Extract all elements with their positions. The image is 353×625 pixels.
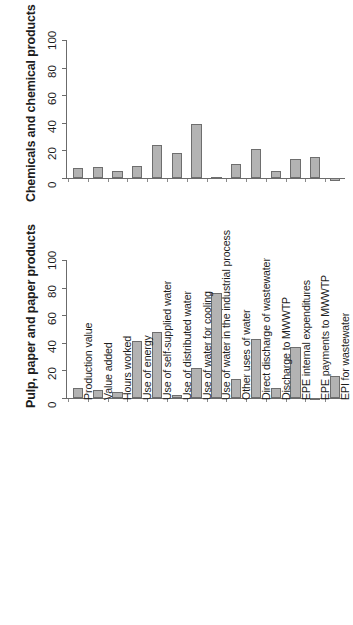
x-axis-label: Use of water in the industrial process (220, 230, 232, 400)
x-axis-label: Use of energy (141, 335, 153, 400)
chart-panel-chemicals: Chemicals and chemical products 02040608… (0, 0, 353, 210)
x-tick-mark (246, 179, 247, 182)
y-tick-label: 100 (46, 31, 58, 50)
y-tick-label: 40 (46, 120, 58, 133)
x-tick-mark (147, 179, 148, 182)
x-tick-mark (68, 179, 69, 182)
bar (271, 171, 281, 178)
bar (231, 164, 241, 178)
y-tick-label: 60 (46, 312, 58, 325)
bar (152, 145, 162, 178)
x-tick-mark (88, 179, 89, 182)
x-axis-label: Value added (102, 342, 114, 400)
x-axis-category-labels: Production valueValue addedHours workedU… (0, 398, 353, 625)
figure-root: Chemicals and chemical products 02040608… (0, 0, 353, 625)
x-tick-mark (108, 179, 109, 182)
bar (73, 168, 83, 178)
x-tick-mark (266, 179, 267, 182)
y-tick-label: 40 (46, 340, 58, 353)
x-axis-label: Use of self-supplied water (161, 281, 173, 400)
x-axis-label: EPI for wastewater (339, 313, 351, 400)
x-axis-label: Use of distributed water (181, 291, 193, 400)
x-axis-label: Use of water for cooling (201, 291, 213, 400)
bar (330, 178, 340, 181)
x-axis-label: Discharge to MWWTP (280, 297, 292, 400)
bar (172, 153, 182, 178)
bar (290, 159, 300, 178)
y-axis-title-chemicals: Chemicals and chemical products (24, 5, 38, 203)
x-tick-mark (207, 179, 208, 182)
x-axis-label: Hours worked (121, 336, 133, 400)
bar (132, 166, 142, 178)
y-tick-label: 20 (46, 148, 58, 161)
y-axis-spine (66, 40, 67, 178)
x-tick-mark (127, 179, 128, 182)
x-axis-label: EPE payments to MWWTP (319, 275, 331, 400)
x-axis-label: Production value (82, 323, 94, 400)
x-tick-mark (325, 179, 326, 182)
bar (251, 149, 261, 178)
bar (310, 157, 320, 178)
x-axis-label: Other uses of water (240, 309, 252, 400)
x-tick-mark (305, 179, 306, 182)
bar (93, 167, 103, 178)
x-tick-mark (226, 179, 227, 182)
y-tick-label: 80 (46, 65, 58, 78)
x-axis-label: Direct discharge of wastewater (260, 258, 272, 400)
bar (211, 177, 221, 179)
y-tick-label: 20 (46, 368, 58, 381)
x-tick-mark (187, 179, 188, 182)
bar (112, 171, 122, 178)
y-axis-spine (66, 260, 67, 398)
y-axis-title-pulp-paper: Pulp, paper and paper products (24, 224, 38, 408)
x-tick-mark (167, 179, 168, 182)
y-tick-label: 80 (46, 285, 58, 298)
y-tick-label: 100 (46, 251, 58, 270)
x-axis-label: EPE internal expenditures (300, 280, 312, 400)
y-tick-label: 60 (46, 92, 58, 105)
x-tick-mark (286, 179, 287, 182)
bar (191, 124, 201, 178)
y-tick-label: 0 (46, 182, 58, 188)
